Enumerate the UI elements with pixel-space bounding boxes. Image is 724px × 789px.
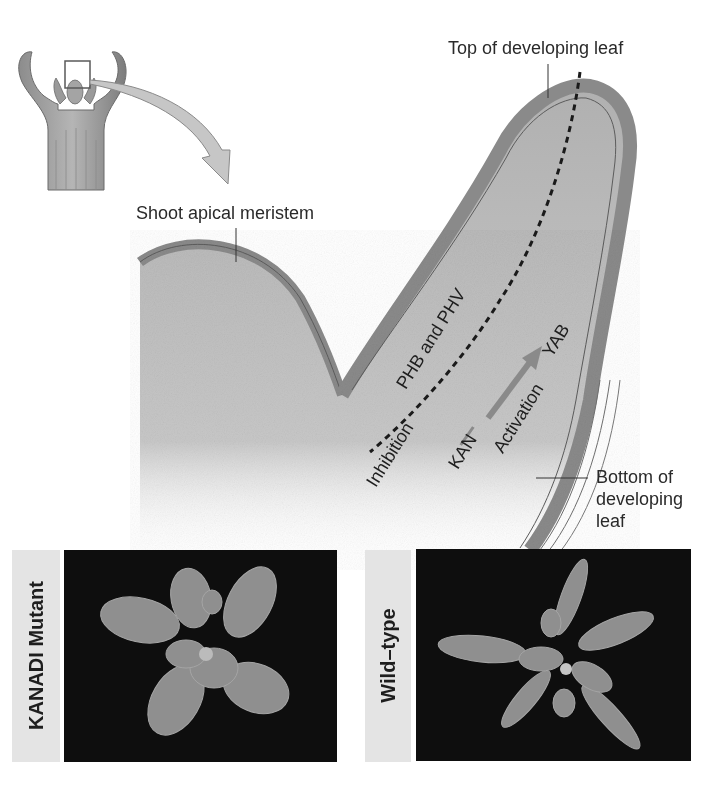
label-shoot-apical-meristem: Shoot apical meristem: [136, 203, 314, 225]
seedling-inset-icon: [19, 52, 126, 190]
kanadi-mutant-photo: [64, 550, 337, 762]
wildtype-label-strip: Wild–type: [365, 550, 411, 762]
label-bottom-line2: developing: [596, 488, 683, 510]
kanadi-mutant-label: KANADI Mutant: [25, 578, 48, 734]
wild-type-photo: [416, 549, 691, 761]
label-bottom-line3: leaf: [596, 510, 683, 532]
label-bottom-of-leaf: Bottom of developing leaf: [596, 466, 683, 532]
label-bottom-line1: Bottom of: [596, 466, 683, 488]
kanadi-label-strip: KANADI Mutant: [12, 550, 60, 762]
label-top-of-leaf: Top of developing leaf: [448, 38, 623, 60]
rosette-mutant-icon: [64, 550, 337, 762]
diagram-canvas: Top of developing leaf Shoot apical meri…: [0, 0, 724, 789]
rosette-wildtype-icon: [416, 549, 691, 761]
texture: [130, 230, 640, 570]
wild-type-label: Wild–type: [377, 583, 400, 729]
